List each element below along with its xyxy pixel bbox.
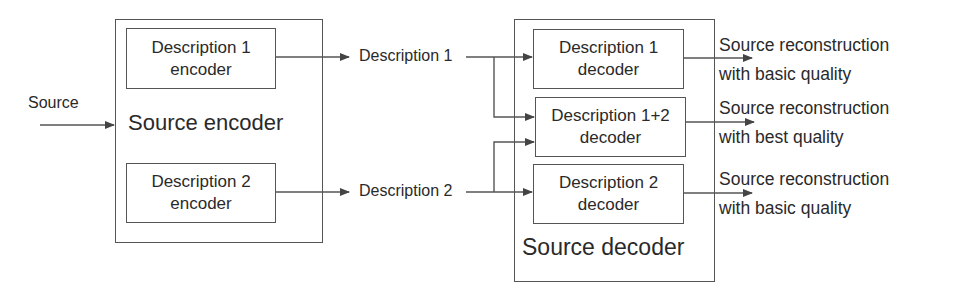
channel-description-1-label: Description 1 xyxy=(359,47,452,65)
description-2-encoder-line1: Description 2 xyxy=(151,171,250,193)
description-1-2-decoder-line1: Description 1+2 xyxy=(551,105,670,127)
output-3-line1: Source reconstruction xyxy=(719,165,889,194)
source-decoder-label: Source decoder xyxy=(522,234,684,261)
description-1-decoder-line2: decoder xyxy=(578,59,639,81)
description-1-encoder-line2: encoder xyxy=(170,59,231,81)
source-encoder-label: Source encoder xyxy=(128,110,283,136)
output-basic-quality-2: Source reconstruction with basic quality xyxy=(719,165,889,223)
description-2-encoder-line2: encoder xyxy=(170,193,231,215)
output-1-line1: Source reconstruction xyxy=(719,31,889,60)
description-1-encoder: Description 1 encoder xyxy=(126,28,276,89)
channel-description-2-label: Description 2 xyxy=(359,182,452,200)
description-1-2-decoder-line2: decoder xyxy=(580,127,641,149)
description-1-decoder-line1: Description 1 xyxy=(559,37,658,59)
description-2-decoder: Description 2 decoder xyxy=(533,164,684,224)
output-2-line2: with best quality xyxy=(719,123,889,152)
source-input-label: Source xyxy=(28,94,79,112)
description-1-2-decoder: Description 1+2 decoder xyxy=(535,97,686,157)
output-best-quality: Source reconstruction with best quality xyxy=(719,94,889,152)
output-1-line2: with basic quality xyxy=(719,60,889,89)
description-2-encoder: Description 2 encoder xyxy=(126,163,276,223)
output-2-line1: Source reconstruction xyxy=(719,94,889,123)
description-1-encoder-line1: Description 1 xyxy=(151,37,250,59)
output-3-line2: with basic quality xyxy=(719,194,889,223)
output-basic-quality-1: Source reconstruction with basic quality xyxy=(719,31,889,89)
description-2-decoder-line2: decoder xyxy=(578,194,639,216)
description-2-decoder-line1: Description 2 xyxy=(559,172,658,194)
description-1-decoder: Description 1 decoder xyxy=(533,29,684,89)
